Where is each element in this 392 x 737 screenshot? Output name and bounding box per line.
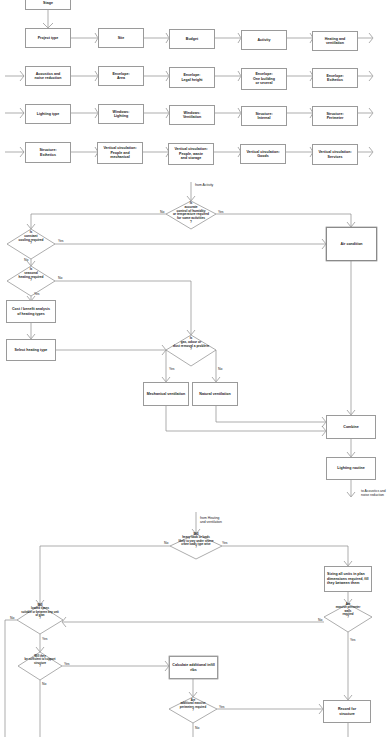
decision-ventilation: Is gas, odour or dust removal a problem … — [170, 337, 212, 352]
box-sizing-units: Sizing all units in plan dimensions requ… — [324, 566, 372, 592]
decision-loaded-spans: Will loaded spans suitable or between an… — [20, 604, 60, 620]
yes-label: Yes — [58, 239, 64, 243]
process-box-lighting-type: Lighting type — [25, 104, 71, 124]
no-label: No — [318, 618, 322, 622]
box-air-condition: Air condition — [326, 227, 377, 261]
box-lighting-routine: Lighting routine — [326, 457, 376, 480]
process-box-vc-goods: Vertical circulation: Goods — [240, 144, 286, 164]
process-box-structure-perimeter: Structure: Perimeter — [312, 106, 358, 126]
box-calculate-infill: Calculate additional infill ribs — [169, 656, 218, 679]
process-box-windows-lighting: Windows: Lighting — [98, 104, 144, 124]
no-label: No — [195, 726, 199, 730]
yes-label: Yes — [64, 662, 70, 666]
decision-control: Is accurate control of humidity or tempe… — [168, 202, 214, 225]
exit-label-acoustics: to Acoustics and noise reduction — [361, 489, 386, 497]
process-box-vc-services: Vertical circulation: Services — [312, 144, 358, 165]
process-box-site: Site — [98, 28, 144, 48]
entry-label-heating: from Heating and ventilation — [200, 516, 222, 524]
process-box-acoustics: Acoustics and noise reduction — [25, 66, 71, 86]
no-label: No — [160, 210, 164, 214]
process-box-structure-esthetics: Structure: Esthetics — [25, 142, 71, 163]
process-box-vc-people-waste: Vertical circulation: People, waste and … — [168, 143, 214, 165]
no-label: No — [164, 541, 168, 545]
process-box-heating-ventilation: Heating and ventilation — [312, 31, 358, 51]
yes-label: Yes — [219, 705, 225, 709]
decision-perimeter: Are massive perimeter walls required ? — [328, 603, 368, 619]
box-record-structure: Record for structure — [323, 700, 371, 723]
decision-heavy-loads: Will heavy loads or loads likely to vary… — [172, 533, 220, 549]
box-natural-ventilation: Natural ventilation — [192, 382, 238, 406]
process-box-vc-people-mech: Vertical circulation: People and mechani… — [97, 142, 143, 164]
no-label: No — [58, 276, 62, 280]
yes-label: Yes — [34, 292, 40, 296]
yes-label: Yes — [222, 541, 228, 545]
decision-additional: Are additional massive perimeters requir… — [173, 699, 213, 712]
process-box-envelope-height: Envelope: Legal height — [169, 67, 215, 88]
process-box-activity: Activity — [241, 30, 287, 50]
no-label: No — [10, 616, 14, 620]
process-box-envelope-area: Envelope: Area — [98, 66, 144, 86]
yes-label: Yes — [169, 367, 175, 371]
entry-label-activity: from Activity — [195, 183, 213, 187]
process-box-structure-internal: Structure: Internal — [241, 106, 287, 126]
decision-sufficient: Will they be sufficient to support struc… — [20, 655, 60, 668]
box-cost-analysis: Cost / benefit analysis of heating types — [6, 300, 56, 323]
no-label: No — [24, 258, 28, 262]
yes-label: Yes — [350, 638, 356, 642]
box-select-heating: Select heating type — [6, 339, 56, 361]
process-box-windows-ventilation: Windows: Ventilation — [169, 105, 215, 125]
yes-label: Yes — [42, 637, 48, 641]
process-box-envelope-buildings: Envelope: One building or several — [241, 68, 287, 90]
decision-heating: Is seasonal heating required ? — [12, 268, 50, 283]
box-mechanical-ventilation: Mechanical ventilation — [143, 382, 189, 406]
process-box-project-type: Project type — [25, 28, 71, 48]
no-label: No — [42, 682, 46, 686]
box-combine: Combine — [326, 415, 376, 439]
process-box-envelope-esthetics: Envelope: Esthetics — [312, 68, 358, 88]
yes-label: Yes — [218, 210, 224, 214]
stage-box: Stage — [25, 0, 71, 10]
flowchart-canvas: Stage Project type Site Budget Activity … — [0, 0, 392, 737]
process-box-budget: Budget — [169, 29, 215, 49]
no-label: No — [218, 367, 222, 371]
decision-cooling: Is constant cooling required ? — [12, 231, 50, 246]
